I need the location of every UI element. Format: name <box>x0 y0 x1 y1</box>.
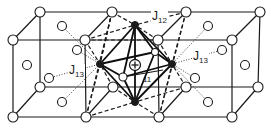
label-j11: 11 <box>142 72 152 84</box>
center-ion <box>130 60 141 71</box>
label-j11-sub: 11 <box>143 75 151 84</box>
label-j13-right: J13 <box>192 50 209 65</box>
label-j13-right-sub: 13 <box>199 56 208 65</box>
label-j13-left-sub: 13 <box>75 70 84 79</box>
label-j12-sub: 12 <box>158 16 167 25</box>
label-j12: J12 <box>151 10 168 25</box>
label-j13-left: J13 <box>68 64 85 79</box>
lattice-diagram <box>0 0 271 132</box>
